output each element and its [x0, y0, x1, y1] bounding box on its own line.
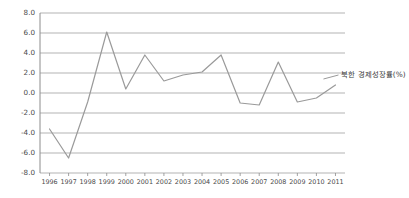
x-axis-tick-label: 2005 — [213, 178, 229, 186]
y-axis-tick-label: -2.0 — [21, 108, 35, 117]
x-axis-tick-label: 2002 — [156, 178, 172, 186]
x-axis-tick-label: 2001 — [137, 178, 153, 186]
y-axis-tick-label: -8.0 — [21, 168, 35, 177]
x-axis-tick-label: 1999 — [99, 178, 115, 186]
series-callout-label: 북한 경제성장률(%) — [341, 70, 405, 79]
economic-growth-line-chart: 8.06.04.02.00.0-2.0-4.0-6.0-8.0 19961997… — [0, 0, 409, 198]
x-axis-tick-label: 1996 — [41, 178, 57, 186]
x-axis-tick-label: 1997 — [60, 178, 76, 186]
y-axis-tick-label: 6.0 — [24, 28, 36, 37]
x-axis-tick-label: 2003 — [175, 178, 191, 186]
x-axis-tick-label: 2009 — [289, 178, 305, 186]
x-axis-tick-label: 2010 — [308, 178, 324, 186]
x-axis-tick-label: 2011 — [327, 178, 343, 186]
x-axis-tick-label: 2004 — [194, 178, 210, 186]
y-axis-tick-label: 0.0 — [24, 88, 36, 97]
x-axis-tick-label: 2007 — [251, 178, 267, 186]
x-axis-tick-label: 1998 — [80, 178, 96, 186]
x-axis-tick-label: 2008 — [270, 178, 286, 186]
y-axis-tick-label: 2.0 — [24, 68, 36, 77]
y-axis-tick-labels: 8.06.04.02.00.0-2.0-4.0-6.0-8.0 — [21, 8, 35, 177]
y-axis-tick-label: 8.0 — [24, 8, 36, 17]
y-axis-tick-label: -4.0 — [21, 128, 35, 137]
y-axis-tick-label: -6.0 — [21, 148, 35, 157]
chart-background — [0, 0, 409, 198]
y-axis-tick-label: 4.0 — [24, 48, 36, 57]
x-axis-tick-label: 2000 — [118, 178, 134, 186]
chart-container: 8.06.04.02.00.0-2.0-4.0-6.0-8.0 19961997… — [0, 0, 409, 198]
x-axis-tick-label: 2006 — [232, 178, 248, 186]
